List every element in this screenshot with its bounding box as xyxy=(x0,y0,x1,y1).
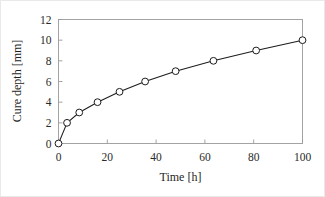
x-axis-title: Time [h] xyxy=(160,170,202,184)
x-tick-label: 60 xyxy=(199,151,211,163)
y-axis-title: Cure depth [mm] xyxy=(10,40,24,123)
y-axis-tick-marks xyxy=(59,20,63,144)
y-tick-label: 4 xyxy=(46,96,52,108)
x-tick-label: 80 xyxy=(248,151,260,163)
data-point-marker xyxy=(116,88,123,95)
y-tick-label: 0 xyxy=(46,138,52,150)
data-series-line xyxy=(59,40,303,143)
data-point-marker xyxy=(299,37,306,44)
data-point-marker xyxy=(172,68,179,75)
cure-depth-vs-time-chart: 024681012 020406080100 Time [h] Cure dep… xyxy=(1,1,325,197)
data-point-marker xyxy=(76,109,83,116)
x-tick-label: 100 xyxy=(294,151,312,163)
y-tick-label: 6 xyxy=(46,76,52,88)
x-axis-tick-labels: 020406080100 xyxy=(56,151,312,163)
data-point-marker xyxy=(64,119,71,126)
data-point-marker xyxy=(210,57,217,64)
x-tick-label: 40 xyxy=(150,151,162,163)
data-point-marker xyxy=(253,47,260,54)
data-point-marker xyxy=(142,78,149,85)
y-tick-label: 10 xyxy=(40,34,52,46)
y-tick-label: 8 xyxy=(46,55,52,67)
y-axis-tick-labels: 024681012 xyxy=(40,14,52,150)
x-tick-label: 0 xyxy=(56,151,62,163)
plot-frame xyxy=(59,20,303,144)
y-tick-label: 2 xyxy=(46,117,52,129)
figure-container: 024681012 020406080100 Time [h] Cure dep… xyxy=(0,0,325,197)
x-axis-tick-marks xyxy=(59,140,303,144)
data-point-marker xyxy=(94,99,101,106)
x-tick-label: 20 xyxy=(102,151,114,163)
y-tick-label: 12 xyxy=(40,14,52,26)
data-series-markers xyxy=(55,37,306,147)
data-point-marker xyxy=(55,140,62,147)
